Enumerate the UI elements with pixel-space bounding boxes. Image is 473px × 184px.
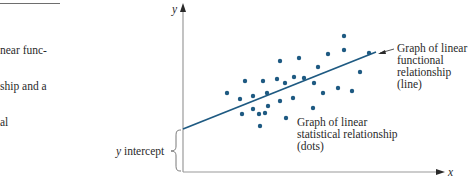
- intercept-brace-icon: [171, 130, 181, 171]
- data-dot: [312, 81, 316, 85]
- line-annotation: Graph of linear functional relationship …: [397, 42, 470, 91]
- data-dot: [278, 59, 282, 63]
- data-dot: [263, 111, 267, 115]
- dots-annotation-3: (dots): [297, 140, 324, 153]
- data-dot: [358, 70, 362, 74]
- y-intercept-label: y intercept: [115, 145, 165, 158]
- data-dot: [258, 124, 262, 128]
- data-dot: [367, 51, 371, 55]
- data-dot: [275, 77, 279, 81]
- y-axis-arrow-icon: [180, 3, 186, 12]
- data-dot: [311, 106, 315, 110]
- data-dot: [266, 104, 270, 108]
- data-dot: [261, 79, 265, 83]
- scatter-diagram: y x Graph of linear functional relations…: [0, 0, 473, 184]
- data-dot: [284, 116, 288, 120]
- data-dot: [283, 81, 287, 85]
- data-dot: [225, 91, 229, 95]
- data-dot: [291, 96, 295, 100]
- data-dot: [297, 56, 301, 60]
- data-dot: [326, 52, 330, 56]
- data-dot: [257, 112, 261, 116]
- dots-annotation: Graph of linear statistical relationship…: [297, 116, 400, 153]
- data-dot: [302, 76, 306, 80]
- line-annotation-2: functional: [397, 54, 444, 66]
- data-dot: [336, 86, 340, 90]
- y-intercept-word: intercept: [121, 145, 165, 158]
- line-annotation-4: (line): [397, 78, 422, 91]
- data-dot: [251, 94, 255, 98]
- data-dot: [251, 107, 255, 111]
- data-dot: [342, 48, 346, 52]
- data-dot: [350, 89, 354, 93]
- data-dot: [316, 65, 320, 69]
- data-dot: [240, 112, 244, 116]
- data-dot: [342, 34, 346, 38]
- x-axis-arrow-icon: [436, 169, 445, 175]
- annotation-arrow-icon: [378, 50, 386, 54]
- statistical-relationship-dots: [225, 34, 371, 128]
- data-dot: [265, 91, 269, 95]
- x-axis-label: x: [447, 166, 454, 178]
- data-dot: [292, 75, 296, 79]
- data-dot: [278, 99, 282, 103]
- y-axis-label: y: [171, 3, 178, 16]
- data-dot: [238, 97, 242, 101]
- data-dot: [321, 91, 325, 95]
- data-dot: [243, 79, 247, 83]
